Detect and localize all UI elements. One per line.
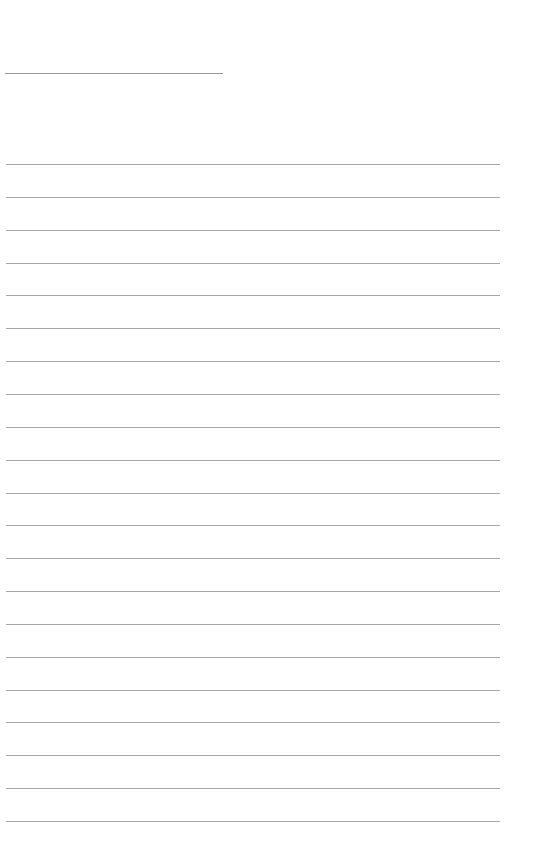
name-line xyxy=(5,73,223,74)
ruled-line xyxy=(6,821,500,822)
ruled-line xyxy=(6,657,500,658)
ruled-line xyxy=(6,525,500,526)
ruled-line xyxy=(6,788,500,789)
ruled-line xyxy=(6,361,500,362)
ruled-line xyxy=(6,328,500,329)
ruled-line xyxy=(6,263,500,264)
ruled-line xyxy=(6,591,500,592)
ruled-line xyxy=(6,755,500,756)
ruled-line xyxy=(6,164,500,165)
ruled-line xyxy=(6,722,500,723)
ruled-line xyxy=(6,197,500,198)
ruled-line xyxy=(6,690,500,691)
ruled-line xyxy=(6,558,500,559)
ruled-line xyxy=(6,624,500,625)
ruled-line xyxy=(6,230,500,231)
ruled-line xyxy=(6,394,500,395)
ruled-line xyxy=(6,295,500,296)
ruled-line xyxy=(6,493,500,494)
ruled-line xyxy=(6,460,500,461)
ruled-line xyxy=(6,427,500,428)
